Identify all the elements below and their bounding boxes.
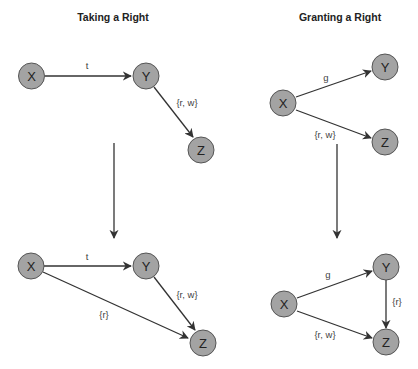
node-z-label: Z (381, 135, 389, 150)
edge-label-grant: g (325, 269, 330, 280)
edge-label-rw: {r, w} (314, 129, 335, 140)
edge-y-z (154, 87, 193, 137)
edge-label-take: t (86, 251, 89, 262)
title-taking-a-right: Taking a Right (77, 11, 149, 23)
edge-label-r: {r} (99, 309, 109, 320)
node-z-label: Z (197, 143, 205, 158)
taking-before-graph: t {r, w} X Y Z (19, 60, 215, 163)
edge-label-grant: g (323, 72, 328, 83)
take-grant-diagram: Taking a Right Granting a Right t {r, w}… (0, 0, 418, 369)
edge-label-rw: {r, w} (176, 289, 197, 300)
node-x-label: X (27, 259, 36, 274)
node-y-label: Y (142, 259, 151, 274)
edge-label-rw: {r, w} (314, 329, 335, 340)
node-y-label: Y (382, 260, 391, 275)
edge-y-z (154, 277, 195, 330)
edge-label-r: {r} (392, 296, 402, 307)
edge-label-rw: {r, w} (176, 97, 197, 108)
edge-x-z (43, 272, 188, 338)
edge-x-y (297, 271, 372, 298)
taking-after-graph: t {r, w} {r} X Y Z (18, 251, 216, 356)
edge-x-y (296, 71, 371, 97)
node-z-label: Z (199, 336, 207, 351)
node-x-label: X (27, 69, 36, 84)
node-y-label: Y (381, 60, 390, 75)
granting-after-graph: g {r, w} {r} X Y Z (271, 254, 402, 355)
title-granting-a-right: Granting a Right (299, 11, 382, 23)
node-y-label: Y (142, 69, 151, 84)
node-x-label: X (280, 297, 289, 312)
granting-before-graph: g {r, w} X Y Z (270, 54, 398, 155)
edge-label-take: t (86, 60, 89, 71)
node-x-label: X (279, 96, 288, 111)
node-z-label: Z (382, 335, 390, 350)
